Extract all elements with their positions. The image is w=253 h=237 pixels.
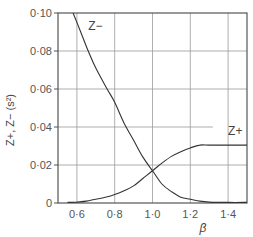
- x-tick-label: 0·8: [107, 208, 123, 220]
- chart: 00·020·040·060·080·10 0·60·81·01·21·4 Z−…: [0, 0, 253, 237]
- x-axis-ticks: 0·60·81·01·21·4: [69, 208, 236, 220]
- y-tick-label: 0·04: [30, 121, 52, 133]
- series-z-plus-curve: [68, 145, 248, 203]
- curve-label: Z+: [228, 124, 242, 138]
- y-tick-label: 0·10: [30, 7, 52, 19]
- y-axis-label: Z+, Z− (s²): [4, 94, 16, 146]
- gridlines: [58, 13, 247, 203]
- x-tick-label: 1·2: [182, 208, 198, 220]
- curve-labels: Z−Z+: [88, 19, 242, 138]
- y-tick-label: 0·02: [30, 159, 52, 171]
- curves: [68, 13, 248, 202]
- x-tick-label: 1·4: [220, 208, 236, 220]
- y-tick-label: 0·06: [30, 83, 52, 95]
- series-z-minus-curve: [73, 13, 247, 202]
- x-axis-label: β: [199, 221, 207, 235]
- curve-label: Z−: [88, 19, 102, 33]
- y-axis-ticks: 00·020·040·060·080·10: [30, 7, 58, 209]
- y-tick-label: 0: [46, 197, 52, 209]
- x-tick-label: 1·0: [145, 208, 161, 220]
- y-tick-label: 0·08: [30, 45, 52, 57]
- x-tick-label: 0·6: [69, 208, 85, 220]
